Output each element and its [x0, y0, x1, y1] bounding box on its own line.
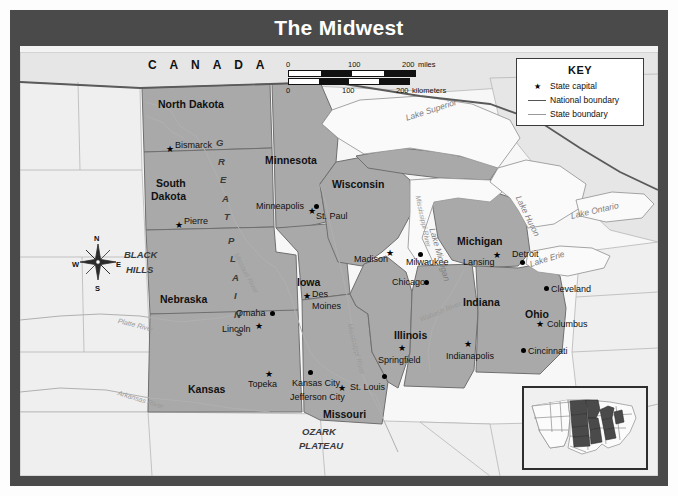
great-plains-letter-r: R [218, 157, 242, 167]
great-plains-letter-s: S [236, 328, 242, 338]
label-black-hills-1: BLACK [124, 250, 157, 260]
star-icon-lincoln: ★ [255, 322, 263, 331]
label-illinois: Illinois [394, 330, 427, 341]
label-nebraska: Nebraska [160, 294, 207, 305]
label-north-dakota: North Dakota [158, 99, 224, 110]
label-wisconsin: Wisconsin [332, 179, 384, 190]
scale-miles-0: 0 [286, 60, 290, 69]
scale-miles-200: 200 [402, 60, 415, 69]
label-minneapolis: Minneapolis [256, 202, 304, 211]
scale-miles-100: 100 [348, 60, 361, 69]
dot-icon-omaha [270, 311, 275, 316]
label-cleveland: Cleveland [551, 285, 591, 294]
dot-icon-detroit [520, 260, 525, 265]
dot-icon-cleveland [544, 286, 549, 291]
label-pierre: Pierre [184, 217, 208, 226]
page-title: The Midwest [274, 16, 403, 40]
scale-km-100: 100 [342, 86, 355, 95]
star-icon-springfield: ★ [398, 344, 406, 353]
label-dakota: Dakota [151, 191, 186, 202]
label-great-plains: G R E A T P L A I N S [216, 138, 242, 338]
dot-icon-minneapolis [314, 204, 319, 209]
label-missouri: Missouri [323, 409, 366, 420]
key-label-national-boundary: National boundary [550, 95, 619, 105]
scale-bar-miles [288, 70, 416, 77]
great-plains-letter-e: E [220, 175, 242, 185]
label-bismarck: Bismarck [175, 141, 212, 150]
compass-north: N [94, 234, 99, 243]
dot-icon-kansas-city [308, 370, 313, 375]
label-lansing: Lansing [463, 258, 495, 267]
scale-km-unit: kilometers [412, 86, 446, 95]
great-plains-letter-a: A [222, 194, 242, 204]
key-label-state-capital: State capital [550, 81, 597, 91]
star-icon-des-moines: ★ [303, 292, 311, 301]
great-plains-letter-t: T [224, 212, 242, 222]
scale-miles-ticks: 0 100 200 miles [288, 60, 428, 70]
great-plains-letter-n: N [234, 310, 242, 320]
label-cincinnati: Cincinnati [528, 347, 568, 356]
scale-bar-kilometers [288, 78, 410, 85]
star-icon-columbus: ★ [536, 320, 544, 329]
key-label-state-boundary: State boundary [550, 109, 608, 119]
star-icon-topeka: ★ [265, 370, 273, 379]
label-minnesota: Minnesota [265, 155, 317, 166]
label-madison: Madison [354, 255, 388, 264]
key-row-state-capital: ★ State capital [524, 81, 636, 91]
map-canvas: C A N A D A North Dakota South Dakota Mi… [20, 52, 658, 476]
scale-miles-unit: miles [418, 60, 436, 69]
label-st-paul: St. Paul [316, 212, 348, 221]
star-icon-indianapolis: ★ [464, 340, 472, 349]
key-heading: KEY [524, 64, 636, 76]
compass-south: S [95, 284, 100, 293]
label-indianapolis: Indianapolis [446, 352, 494, 361]
label-kansas-city: Kansas City [292, 379, 340, 388]
thick-line-icon [524, 100, 550, 101]
locator-map-geometry [524, 388, 646, 468]
label-springfield: Springfield [378, 356, 421, 365]
compass-west: W [72, 260, 79, 269]
label-columbus: Columbus [547, 320, 588, 329]
label-iowa: Iowa [297, 277, 320, 288]
dot-icon-st-louis [382, 374, 387, 379]
label-canada: C A N A D A [148, 59, 269, 71]
label-topeka: Topeka [248, 380, 277, 389]
label-ozark-1: OZARK [302, 427, 336, 437]
great-plains-letter-g: G [216, 138, 242, 148]
label-black-hills-2: HILLS [126, 265, 153, 275]
label-st-louis: St. Louis [350, 383, 385, 392]
great-plains-letter-p: P [228, 236, 242, 246]
great-plains-letter-l: L [230, 254, 242, 264]
star-icon: ★ [524, 82, 550, 91]
map-page: The Midwest [0, 0, 678, 496]
scale-km-200: 200 [396, 86, 409, 95]
label-ozark-2: PLATEAU [299, 441, 343, 451]
label-kansas: Kansas [188, 384, 225, 395]
label-des-moines-2: Moines [312, 302, 341, 311]
star-icon-bismarck: ★ [166, 145, 174, 154]
dot-icon-cincinnati [521, 348, 526, 353]
key-row-national-boundary: National boundary [524, 95, 636, 105]
label-chicago: Chicago [392, 278, 425, 287]
locator-map [522, 386, 648, 470]
map-key: KEY ★ State capital National boundary St… [516, 58, 644, 126]
star-icon-pierre: ★ [175, 221, 183, 230]
key-row-state-boundary: State boundary [524, 109, 636, 119]
label-south: South [156, 178, 186, 189]
title-banner: The Midwest [10, 10, 668, 46]
label-michigan: Michigan [457, 236, 503, 247]
scale-km-0: 0 [286, 86, 290, 95]
thin-line-icon [524, 114, 550, 115]
scale-km-ticks: 0 100 200 kilometers [288, 86, 428, 96]
scale-bar: 0 100 200 miles 0 100 200 kilometers [288, 60, 428, 96]
compass-east: E [116, 260, 121, 269]
great-plains-letter-a2: A [232, 273, 242, 283]
label-ohio: Ohio [525, 309, 549, 320]
great-plains-letter-i: I [234, 291, 242, 301]
label-des-moines: Des [312, 290, 328, 299]
label-jefferson-city: Jefferson City [290, 393, 345, 402]
compass-rose: N S W E [72, 234, 124, 294]
label-indiana: Indiana [463, 297, 500, 308]
